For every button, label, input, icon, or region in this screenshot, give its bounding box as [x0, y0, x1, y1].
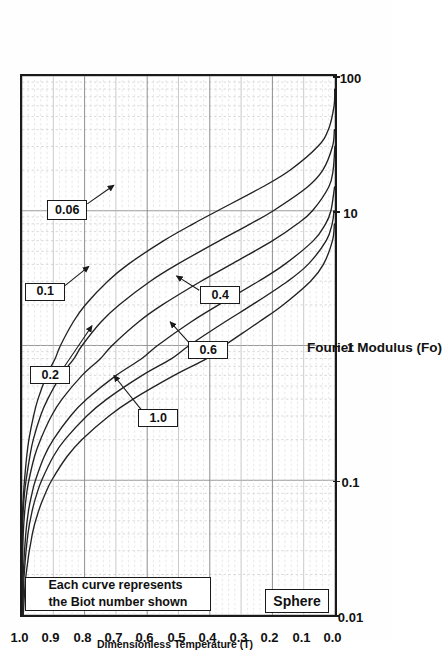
y-tick-0.1: 0.1	[287, 630, 315, 645]
y-tick-0.9: 0.9	[37, 630, 65, 645]
x-tick-mark	[333, 211, 340, 213]
x-tick-mark	[333, 481, 340, 483]
x-tick-mark	[333, 615, 340, 617]
plot-area	[20, 74, 337, 617]
y-tick-0.0: 0.0	[319, 630, 347, 645]
y-axis-title: Dimensionless Temperature (T)	[90, 638, 260, 650]
sphere-label-text: Sphere	[273, 593, 320, 609]
x-axis-title: Fourier Modulus (Fo)	[305, 340, 445, 355]
curve-label-text: 0.6	[199, 343, 216, 357]
curve-label-text: 1.0	[149, 411, 166, 425]
curve-label-0.2: 0.2	[30, 367, 70, 385]
y-tick-1.0: 1.0	[6, 630, 34, 645]
biot-note-text: Each curve representsthe Biot number sho…	[49, 577, 188, 611]
curve-label-text: 0.1	[36, 284, 53, 298]
x-tick-0.01: 0.01	[335, 610, 367, 625]
curve-label-text: 0.4	[212, 288, 229, 302]
curve-label-text: 0.06	[55, 203, 79, 217]
curve-label-0.06: 0.06	[47, 200, 87, 220]
y-tick-0.2: 0.2	[256, 630, 284, 645]
x-tick-10: 10	[335, 205, 367, 220]
x-tick-mark	[333, 76, 340, 78]
curve-label-0.1: 0.1	[25, 283, 65, 301]
curve-label-1.0: 1.0	[138, 409, 178, 427]
biot-note-box: Each curve representsthe Biot number sho…	[25, 577, 211, 611]
x-tick-0.1: 0.1	[335, 475, 367, 490]
curves-layer	[22, 76, 335, 615]
curve-label-text: 0.2	[41, 368, 58, 382]
curve-label-0.4: 0.4	[200, 286, 240, 304]
sphere-label-box: Sphere	[265, 589, 329, 613]
x-tick-100: 100	[335, 71, 367, 86]
curve-label-0.6: 0.6	[188, 342, 228, 360]
